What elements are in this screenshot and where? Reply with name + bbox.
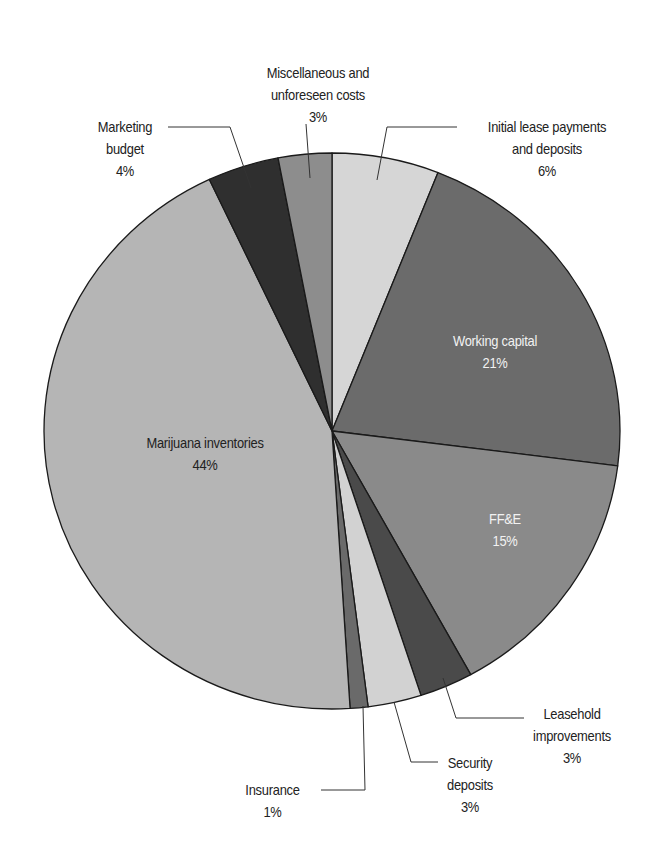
leader-security [394, 702, 438, 762]
label-text: Insurance [236, 779, 309, 801]
label-pct: 3% [241, 106, 396, 128]
label-pct: 15% [475, 530, 535, 552]
label-text: FF&E [475, 508, 535, 530]
label-pct: 1% [236, 801, 309, 823]
label-text: Marijuana inventories [115, 432, 296, 454]
label-text: Initial lease payments [465, 116, 628, 138]
label-pct: 3% [436, 796, 505, 818]
label-pct: 4% [78, 160, 173, 182]
label-initial-lease: Initial lease payments and deposits 6% [465, 116, 628, 182]
label-pct: 6% [465, 160, 628, 182]
label-ffe: FF&E 15% [475, 508, 535, 552]
label-text: Leasehold [520, 703, 623, 725]
label-pct: 3% [520, 747, 623, 769]
label-text: unforeseen costs [241, 84, 396, 106]
label-pct: 21% [431, 352, 560, 374]
label-working-capital: Working capital 21% [431, 330, 560, 374]
leader-insurance [321, 706, 365, 790]
label-text: Security [436, 752, 505, 774]
label-text: Marketing [78, 116, 173, 138]
label-insurance: Insurance 1% [236, 779, 309, 823]
label-text: Working capital [431, 330, 560, 352]
label-marketing: Marketing budget 4% [78, 116, 173, 182]
label-text: improvements [520, 725, 623, 747]
label-text: and deposits [465, 138, 628, 160]
label-text: budget [78, 138, 173, 160]
label-text: Miscellaneous and [241, 62, 396, 84]
leader-leasehold [443, 678, 524, 718]
label-misc: Miscellaneous and unforeseen costs 3% [241, 62, 396, 128]
label-security: Security deposits 3% [436, 752, 505, 818]
pie-slices [44, 153, 620, 709]
label-leasehold: Leasehold improvements 3% [520, 703, 623, 769]
label-text: deposits [436, 774, 505, 796]
label-pct: 44% [115, 454, 296, 476]
label-marijuana: Marijuana inventories 44% [115, 432, 296, 476]
